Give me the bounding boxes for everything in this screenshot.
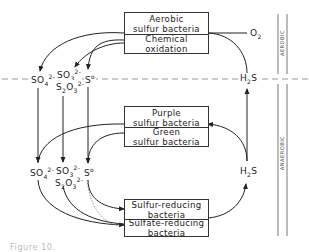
aerobic-bacteria-label: Aerobic sulfur bacteria bbox=[125, 15, 208, 34]
box-text: sulfur bacteria bbox=[125, 25, 208, 35]
sulfate-reducing-bacteria-label: Sulfate-reducing bacteria bbox=[125, 219, 208, 238]
sulfate-lower: SO42- bbox=[30, 166, 54, 180]
aerobic-oxidation-box: Aerobic sulfur bacteria Chemical oxidati… bbox=[124, 12, 209, 54]
box-text: oxidation bbox=[125, 45, 208, 55]
oxygen-label: O2 bbox=[250, 28, 262, 40]
aerobic-zone-label: AEROBIC bbox=[279, 25, 285, 61]
box-text: bacteria bbox=[125, 229, 208, 239]
elemental-sulfur-upper: So bbox=[84, 73, 96, 85]
thiosulfate-lower: S2O32- bbox=[55, 176, 83, 190]
hydrogen-sulfide-upper: H2S bbox=[239, 73, 258, 85]
anaerobic-zone-label: ANAEROBIC bbox=[279, 128, 285, 178]
phototrophic-bacteria-box: Purple sulfur bacteria Green sulfur bact… bbox=[124, 106, 209, 147]
chemical-oxidation-label: Chemical oxidation bbox=[125, 35, 208, 54]
purple-sulfur-bacteria-label: Purple sulfur bacteria bbox=[125, 109, 208, 128]
figure-caption: Figure 10. bbox=[10, 243, 56, 252]
elemental-sulfur-lower: So bbox=[84, 166, 94, 178]
reducing-bacteria-box: Sulfur-reducing bacteria Sulfate-reducin… bbox=[124, 199, 209, 237]
sulfate-upper: SO42- bbox=[30, 73, 56, 87]
box-text: sulfur bacteria bbox=[125, 138, 208, 148]
green-sulfur-bacteria-label: Green sulfur bacteria bbox=[125, 128, 208, 147]
hydrogen-sulfide-lower: H2S bbox=[239, 166, 258, 178]
thiosulfate-upper: S2O32- bbox=[55, 80, 85, 94]
